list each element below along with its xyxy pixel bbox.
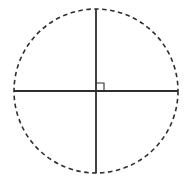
circle-diagram-svg (0, 0, 188, 181)
right-angle-marker (96, 83, 104, 91)
circle-geometry-diagram (0, 0, 188, 181)
